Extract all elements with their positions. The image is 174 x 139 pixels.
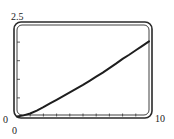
plot-border-inner (17, 25, 149, 115)
x-max-tick-label: 10 (155, 113, 165, 124)
series-line (17, 41, 149, 116)
plot-frame (14, 22, 152, 118)
y-min-tick-label: 0 (3, 114, 8, 125)
series-layer (17, 41, 149, 116)
x-min-tick-label: 0 (12, 125, 17, 136)
y-max-tick-label: 2.5 (11, 11, 24, 22)
chart: 2.5 0 0 10 (0, 0, 174, 139)
plot-border-outer (14, 22, 152, 118)
axis-ticks (17, 42, 136, 116)
